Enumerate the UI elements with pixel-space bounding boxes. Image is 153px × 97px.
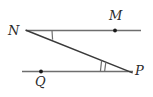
point-label-P: P <box>135 64 144 77</box>
point-label-N: N <box>8 24 19 37</box>
transversal-NP <box>26 30 132 72</box>
angle-mark-n-tick <box>52 31 53 40</box>
angle-mark-p-tick-2 <box>105 62 106 71</box>
point-dot-M <box>113 29 117 33</box>
geometry-figure: N M Q P <box>0 0 153 97</box>
point-label-Q: Q <box>35 75 46 88</box>
point-dot-Q <box>39 70 43 74</box>
angle-mark-p-tick-1 <box>100 61 101 72</box>
point-label-M: M <box>109 9 122 22</box>
geometry-canvas <box>0 0 153 97</box>
